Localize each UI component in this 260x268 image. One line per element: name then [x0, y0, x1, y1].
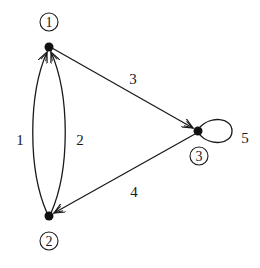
edge-3-line: [52, 48, 193, 128]
edge-2-arc: [51, 52, 65, 213]
edge-1-label: 1: [16, 132, 24, 148]
node-3-label: 3: [196, 149, 203, 164]
node-1-label: 1: [46, 15, 53, 30]
node-2-dot: [45, 212, 54, 221]
edge-4-line: [54, 134, 195, 213]
graph-diagram: 1 2 3 1 2 3 4 5: [0, 0, 260, 268]
node-2-label: 2: [46, 234, 53, 249]
edge-3-label: 3: [129, 71, 137, 87]
edge-1-arc: [33, 52, 47, 213]
edge-5-label: 5: [241, 130, 249, 146]
node-1-dot: [45, 43, 54, 52]
node-3-dot: [194, 127, 203, 136]
edge-2-label: 2: [76, 132, 84, 148]
edge-5-self-loop: [200, 120, 232, 143]
edge-4-label: 4: [130, 184, 138, 200]
